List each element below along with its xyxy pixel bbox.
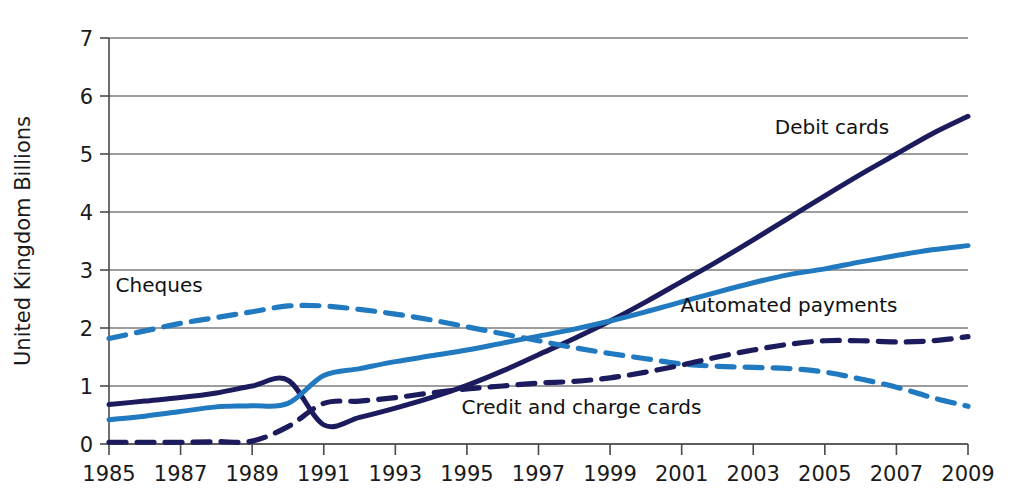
x-tick-label-1989: 1989: [225, 462, 278, 486]
gridlines: [109, 38, 968, 444]
y-tick-label-6: 6: [80, 85, 93, 109]
axis-lines: [109, 38, 968, 444]
x-tick-label-1997: 1997: [512, 462, 565, 486]
y-tick-label-4: 4: [80, 201, 93, 225]
x-tick-label-2007: 2007: [870, 462, 923, 486]
x-axis-ticks: 1985198719891991199319951997199920012003…: [82, 444, 994, 486]
line-chart: 01234567 1985198719891991199319951997199…: [0, 0, 1034, 500]
y-tick-label-7: 7: [80, 27, 93, 51]
y-tick-label-1: 1: [80, 375, 93, 399]
data-series: [109, 116, 968, 442]
series-label-cheques: Cheques: [116, 273, 203, 297]
x-tick-label-1987: 1987: [154, 462, 207, 486]
series-label-credit-and-charge-cards: Credit and charge cards: [462, 395, 702, 419]
series-line-debit-cards: [109, 116, 968, 426]
y-axis-ticks: 01234567: [80, 27, 109, 457]
x-tick-label-1993: 1993: [369, 462, 422, 486]
series-labels: Debit cardsAutomated paymentsChequesCred…: [116, 115, 898, 419]
series-label-automated-payments: Automated payments: [681, 293, 898, 317]
y-tick-label-2: 2: [80, 317, 93, 341]
x-tick-label-1995: 1995: [440, 462, 493, 486]
x-tick-label-2005: 2005: [798, 462, 851, 486]
x-tick-label-1985: 1985: [82, 462, 135, 486]
x-tick-label-1999: 1999: [583, 462, 636, 486]
y-axis-title: United Kingdom Billions: [11, 116, 35, 366]
x-tick-label-2003: 2003: [727, 462, 780, 486]
x-tick-label-1991: 1991: [297, 462, 350, 486]
series-line-automated-payments: [109, 246, 968, 420]
x-tick-label-2009: 2009: [941, 462, 994, 486]
series-label-debit-cards: Debit cards: [775, 115, 889, 139]
y-tick-label-0: 0: [80, 433, 93, 457]
x-tick-label-2001: 2001: [655, 462, 708, 486]
y-tick-label-3: 3: [80, 259, 93, 283]
chart-page: 01234567 1985198719891991199319951997199…: [0, 0, 1034, 500]
y-tick-label-5: 5: [80, 143, 93, 167]
y-axis-title-text: United Kingdom Billions: [11, 116, 35, 366]
